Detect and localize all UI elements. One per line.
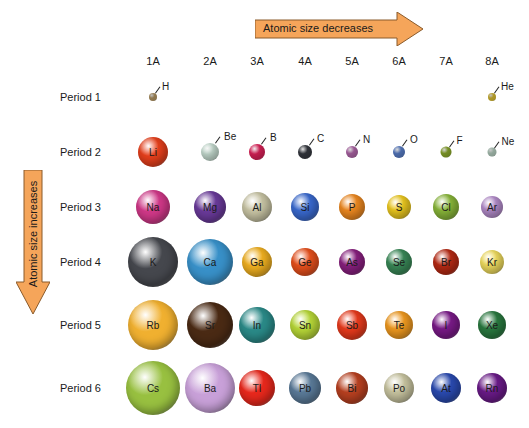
atom-bi: Bi [336, 372, 368, 404]
leader-line [309, 138, 314, 145]
leader-line [355, 139, 360, 146]
period-label-3: Period 3 [60, 201, 101, 213]
atom-ne [488, 148, 497, 157]
atom-symbol: S [396, 202, 403, 213]
atom-tl: Tl [239, 370, 275, 406]
atom-symbol: Na [147, 202, 160, 213]
period-label-1: Period 1 [60, 91, 101, 103]
atom-symbol: Ge [298, 257, 311, 268]
atom-p: P [339, 194, 365, 220]
period-label-5: Period 5 [60, 319, 101, 331]
group-label-8a: 8A [485, 55, 498, 67]
atom-rb: Rb [128, 300, 178, 350]
atom-in: In [239, 307, 275, 343]
atom-symbol: Be [224, 131, 236, 142]
atom-symbol: Li [149, 147, 157, 158]
atom-symbol: O [410, 134, 418, 145]
atom-symbol: Ca [204, 257, 217, 268]
atom-symbol: Ar [487, 202, 497, 213]
atom-symbol: Kr [487, 257, 497, 268]
atom-he [488, 93, 496, 101]
atom-symbol: Al [253, 202, 262, 213]
atom-i: I [432, 311, 460, 339]
atom-na: Na [136, 190, 170, 224]
atom-sb: Sb [337, 310, 367, 340]
atom-symbol: He [501, 81, 514, 92]
atom-sr: Sr [187, 302, 233, 348]
atom-symbol: Rb [147, 320, 160, 331]
atom-symbol: In [253, 320, 261, 331]
atom-symbol: Tl [253, 383, 261, 394]
atom-symbol: Bi [348, 383, 357, 394]
atom-be [201, 143, 219, 161]
atom-symbol: Si [301, 202, 310, 213]
leader-line [155, 86, 160, 93]
atom-cl: Cl [433, 194, 459, 220]
group-label-3a: 3A [250, 55, 263, 67]
atom-symbol: Mg [203, 202, 217, 213]
atom-at: At [431, 373, 461, 403]
atom-symbol: As [346, 257, 358, 268]
atom-ca: Ca [187, 239, 233, 285]
atom-symbol: Se [393, 257, 405, 268]
period-label-6: Period 6 [60, 382, 101, 394]
leader-line [494, 86, 499, 93]
leader-line [402, 139, 407, 146]
atom-symbol: C [317, 133, 324, 144]
atom-symbol: H [162, 81, 169, 92]
atom-symbol: B [270, 132, 277, 143]
atom-c [298, 145, 312, 159]
group-label-6a: 6A [392, 55, 405, 67]
leader-line [449, 140, 454, 147]
atom-mg: Mg [194, 191, 226, 223]
atom-al: Al [242, 192, 272, 222]
atom-symbol: Sr [205, 320, 215, 331]
atom-cs: Cs [126, 361, 180, 415]
leader-line [494, 141, 499, 148]
leader-line [215, 136, 220, 143]
atom-f [441, 147, 452, 158]
atom-symbol: I [445, 320, 448, 331]
atom-n [346, 146, 358, 158]
atom-symbol: F [457, 135, 463, 146]
atom-symbol: Xe [486, 320, 498, 331]
atom-symbol: P [349, 202, 356, 213]
atom-symbol: Rn [486, 383, 499, 394]
period-label-4: Period 4 [60, 256, 101, 268]
atom-kr: Kr [480, 250, 504, 274]
period-label-2: Period 2 [60, 146, 101, 158]
atom-s: S [387, 195, 411, 219]
atom-o [393, 146, 405, 158]
leader-line [261, 137, 266, 144]
atom-ba: Ba [185, 363, 235, 413]
atom-symbol: Po [393, 383, 405, 394]
atom-symbol: K [150, 257, 157, 268]
group-label-1a: 1A [146, 55, 159, 67]
atomic-size-increases-label: Atomic size increases [27, 181, 39, 287]
atom-si: Si [291, 193, 319, 221]
atom-se: Se [386, 249, 412, 275]
atom-symbol: Br [441, 257, 451, 268]
atom-symbol: Sn [299, 320, 311, 331]
atom-symbol: Ne [502, 136, 515, 147]
atom-symbol: Cs [147, 383, 159, 394]
group-label-7a: 7A [439, 55, 452, 67]
group-label-4a: 4A [298, 55, 311, 67]
atom-rn: Rn [477, 373, 507, 403]
atom-as: As [339, 249, 365, 275]
atom-b [249, 144, 265, 160]
atom-symbol: Pb [299, 383, 311, 394]
atom-symbol: Cl [441, 202, 450, 213]
group-label-5a: 5A [345, 55, 358, 67]
atom-br: Br [433, 249, 459, 275]
atom-symbol: Sb [346, 320, 358, 331]
group-label-2a: 2A [203, 55, 216, 67]
atom-symbol: Ba [204, 383, 216, 394]
atom-ga: Ga [242, 247, 272, 277]
atom-symbol: Ga [250, 257, 263, 268]
atom-po: Po [384, 373, 414, 403]
atom-h [149, 93, 157, 101]
atom-pb: Pb [289, 372, 321, 404]
atom-te: Te [385, 311, 413, 339]
atom-sn: Sn [290, 310, 320, 340]
